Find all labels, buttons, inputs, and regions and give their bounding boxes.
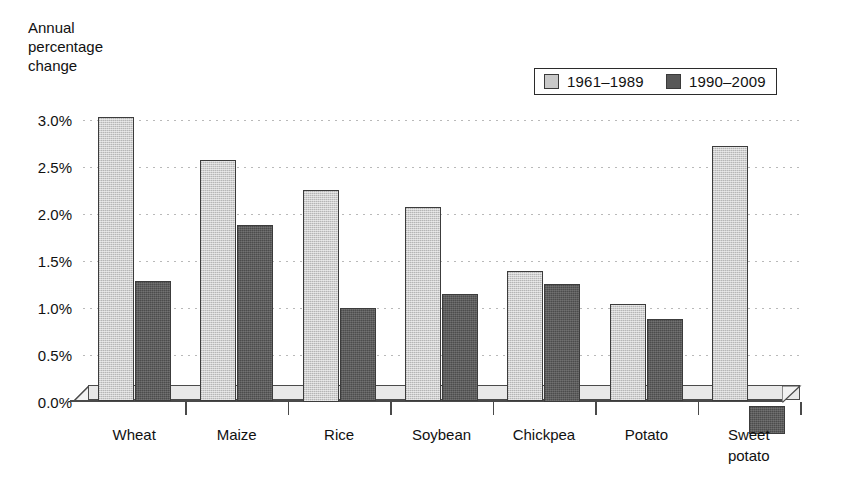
- y-axis-tick-label: 2.5%: [38, 158, 72, 175]
- bar-chickpea-series-2[interactable]: [544, 284, 580, 402]
- bar-rice-series-1[interactable]: [303, 190, 339, 402]
- legend-label-1961-1989: 1961–1989: [567, 73, 644, 90]
- x-axis-label: Wheat: [113, 424, 156, 445]
- legend-label-1990-2009: 1990–2009: [689, 73, 766, 90]
- bar-potato-series-1[interactable]: [610, 304, 646, 402]
- x-axis-label: Rice: [324, 424, 354, 445]
- x-axis-tick: [800, 402, 802, 415]
- bar-maize-series-2[interactable]: [237, 225, 273, 402]
- y-axis-tick-label: 3.0%: [38, 111, 72, 128]
- legend-swatch-dark-icon: [666, 74, 681, 89]
- bar-rice-series-2[interactable]: [340, 308, 376, 401]
- y-axis-tick-label: 0.5%: [38, 346, 72, 363]
- x-axis-label: Soybean: [412, 424, 471, 445]
- y-axis-tick-label: 1.0%: [38, 299, 72, 316]
- bar-wheat-series-1[interactable]: [98, 117, 134, 402]
- legend-item-1990-2009[interactable]: 1990–2009: [666, 73, 766, 90]
- x-axis-label: Sweet potato: [728, 424, 770, 466]
- bar-sweet-potato-series-1[interactable]: [712, 146, 748, 402]
- bar-chickpea-series-1[interactable]: [507, 271, 543, 402]
- x-axis-label: Potato: [625, 424, 668, 445]
- bar-maize-series-1[interactable]: [200, 160, 236, 402]
- bar-soybean-series-1[interactable]: [405, 207, 441, 402]
- bar-wheat-series-2[interactable]: [135, 281, 171, 401]
- bar-soybean-series-2[interactable]: [442, 294, 478, 401]
- x-axis-label: Chickpea: [513, 424, 576, 445]
- x-axis-label: Maize: [217, 424, 257, 445]
- y-axis-tick-label: 1.5%: [38, 252, 72, 269]
- x-axis-category-labels: WheatMaizeRiceSoybeanChickpeaPotatoSweet…: [83, 424, 800, 484]
- legend-swatch-light-icon: [544, 74, 559, 89]
- bar-potato-series-2[interactable]: [647, 319, 683, 402]
- bar-chart: Annual percentage change 1961–1989 1990–…: [0, 0, 849, 489]
- y-axis-tick-label: 2.0%: [38, 205, 72, 222]
- y-axis-tick-label: 0.0%: [38, 393, 72, 410]
- chart-legend: 1961–1989 1990–2009: [534, 68, 777, 95]
- bar-series-container: [83, 100, 800, 440]
- legend-item-1961-1989[interactable]: 1961–1989: [544, 73, 644, 90]
- y-axis-labels: 0.0%0.5%1.0%1.5%2.0%2.5%3.0%: [0, 0, 80, 489]
